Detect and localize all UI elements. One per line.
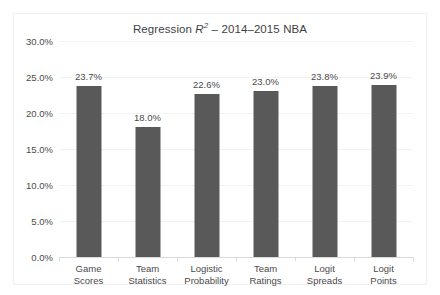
x-axis-category-line: Ratings xyxy=(249,275,281,287)
bar[interactable] xyxy=(253,91,278,257)
bar-value-label: 23.7% xyxy=(75,71,102,82)
x-axis-category-line: Team xyxy=(128,263,166,275)
x-axis-category-label: TeamRatings xyxy=(249,263,281,286)
plot-area: 0.0%5.0%10.0%15.0%20.0%25.0%30.0% 23.7%1… xyxy=(59,41,413,257)
y-axis-tick-label: 25.0% xyxy=(26,72,53,83)
bar-value-label: 23.8% xyxy=(311,71,338,82)
bar-slot: 23.9% xyxy=(354,41,413,257)
x-axis-category-line: Game xyxy=(74,263,104,275)
bar[interactable] xyxy=(312,86,337,257)
chart-title-lead: Regression xyxy=(133,23,195,35)
chart-title-r-symbol: R xyxy=(195,23,203,35)
y-axis-tick-label: 15.0% xyxy=(26,144,53,155)
x-axis-tick xyxy=(118,257,119,261)
chart-title-trail: – 2014–2015 NBA xyxy=(208,23,307,35)
bar[interactable] xyxy=(194,94,219,257)
y-axis-tick-label: 5.0% xyxy=(31,216,53,227)
bar-value-label: 18.0% xyxy=(134,112,161,123)
x-axis-category-line: Logit xyxy=(370,263,396,275)
x-axis-category-line: Logistic xyxy=(184,263,228,275)
x-axis-category-line: Scores xyxy=(74,275,104,287)
x-axis-category-line: Points xyxy=(370,275,396,287)
x-axis-category-label: LogisticProbability xyxy=(184,263,228,286)
x-axis-tick xyxy=(177,257,178,261)
x-axis-category-line: Statistics xyxy=(128,275,166,287)
bar-slot: 23.8% xyxy=(295,41,354,257)
chart-title: Regression R2 – 2014–2015 NBA xyxy=(14,21,426,35)
x-axis-tick xyxy=(59,257,60,261)
y-axis-tick-label: 0.0% xyxy=(31,252,53,263)
x-axis-category-line: Probability xyxy=(184,275,228,287)
x-axis-category-line: Spreads xyxy=(307,275,342,287)
bar-slot: 18.0% xyxy=(118,41,177,257)
x-axis-category-label: TeamStatistics xyxy=(128,263,166,286)
bar[interactable] xyxy=(371,85,396,257)
x-axis-category-label: GameScores xyxy=(74,263,104,286)
x-axis-tick xyxy=(354,257,355,261)
x-axis-category-line: Team xyxy=(249,263,281,275)
x-axis-tick xyxy=(413,257,414,261)
bar-slot: 23.7% xyxy=(59,41,118,257)
bar-value-label: 23.9% xyxy=(370,70,397,81)
bars-group: 23.7%18.0%22.6%23.0%23.8%23.9% xyxy=(59,41,413,257)
bar[interactable] xyxy=(135,127,160,257)
bar-slot: 22.6% xyxy=(177,41,236,257)
bar[interactable] xyxy=(76,86,101,257)
x-axis-tick xyxy=(295,257,296,261)
bar-value-label: 23.0% xyxy=(252,76,279,87)
y-axis-tick-label: 30.0% xyxy=(26,36,53,47)
bar-slot: 23.0% xyxy=(236,41,295,257)
chart-container: Regression R2 – 2014–2015 NBA 0.0%5.0%10… xyxy=(13,13,427,285)
x-axis-category-line: Logit xyxy=(307,263,342,275)
x-axis-tick xyxy=(236,257,237,261)
bar-value-label: 22.6% xyxy=(193,79,220,90)
x-axis-category-label: LogitSpreads xyxy=(307,263,342,286)
y-axis-tick-label: 20.0% xyxy=(26,108,53,119)
x-axis-category-label: LogitPoints xyxy=(370,263,396,286)
y-axis-tick-label: 10.0% xyxy=(26,180,53,191)
